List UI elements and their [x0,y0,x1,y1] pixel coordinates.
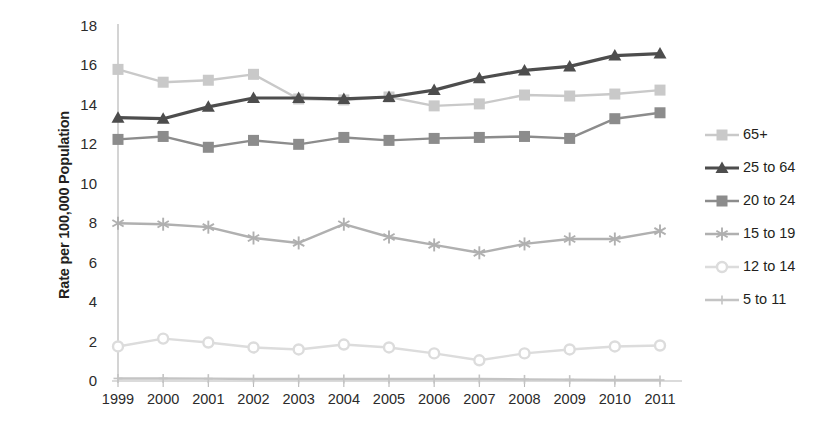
data-point-circle [158,334,168,344]
data-point-square [474,132,485,143]
chart-legend: 65+25 to 6420 to 2415 to 1912 to 145 to … [703,118,829,316]
data-point-circle [610,341,620,351]
data-point-circle [294,344,304,354]
data-point-square [248,69,259,80]
data-point-circle [474,355,484,365]
data-point-circle [717,262,727,272]
legend-label: 65+ [741,127,768,142]
legend-swatch-asterisk-icon [703,225,741,243]
data-point-circle [429,348,439,358]
data-point-square [609,89,620,100]
legend-swatch-triangle-icon [703,159,741,177]
data-point-square [429,133,440,144]
series-15-to-19 [112,217,665,260]
legend-label: 5 to 11 [741,292,786,307]
data-point-square [113,134,124,145]
data-point-square [474,98,485,109]
data-point-plus [475,375,484,384]
data-point-plus [204,374,213,383]
data-point-plus [385,375,394,384]
legend-item-20-to-24[interactable]: 20 to 24 [703,184,829,217]
data-point-plus [656,376,665,385]
data-point-square [203,142,214,153]
legend-item-12-to-14[interactable]: 12 to 14 [703,250,829,283]
series-5-to-11 [114,374,665,385]
legend-label: 20 to 24 [741,193,795,208]
data-point-square [564,91,575,102]
data-point-square [338,132,349,143]
data-point-square [519,90,530,101]
series-12-to-14 [113,334,665,366]
series-20-to-24 [113,107,666,153]
data-point-circle [339,340,349,350]
data-point-square [248,135,259,146]
data-point-plus [339,375,348,384]
data-point-circle [520,348,530,358]
series-layer [112,47,667,384]
legend-swatch-square-icon [703,192,741,210]
data-point-plus [718,295,727,304]
data-point-square [717,195,728,206]
data-point-square [113,64,124,75]
legend-label: 12 to 14 [741,259,795,274]
data-point-square [655,85,666,96]
series-line [118,54,660,119]
series-25-to-64 [112,47,667,124]
data-point-square [564,133,575,144]
data-point-circle [565,344,575,354]
data-point-square [203,75,214,86]
data-point-square [655,107,666,118]
legend-swatch-square-icon [703,126,741,144]
data-point-plus [610,376,619,385]
data-point-square [158,77,169,88]
legend-label: 15 to 19 [741,226,795,241]
data-point-circle [249,342,259,352]
legend-item-5-to-11[interactable]: 5 to 11 [703,283,829,316]
data-point-square [293,139,304,150]
data-point-square [519,131,530,142]
legend-swatch-plus-icon [703,291,741,309]
data-point-plus [430,375,439,384]
legend-item-15-to-19[interactable]: 15 to 19 [703,217,829,250]
data-point-circle [384,342,394,352]
data-point-plus [249,375,258,384]
data-point-plus [565,375,574,384]
data-point-square [158,131,169,142]
legend-swatch-circle-icon [703,258,741,276]
data-point-plus [294,375,303,384]
line-chart: Rate per 100,000 Population 181614121086… [0,0,829,446]
legend-item-25-to-64[interactable]: 25 to 64 [703,151,829,184]
legend-item-65-[interactable]: 65+ [703,118,829,151]
data-point-square [429,100,440,111]
data-point-circle [655,341,665,351]
data-point-circle [113,341,123,351]
series-65- [113,64,666,111]
axis-lines [112,24,682,387]
data-point-square [609,113,620,124]
data-point-circle [203,338,213,348]
data-point-plus [520,375,529,384]
data-point-square [717,129,728,140]
data-point-square [384,135,395,146]
legend-label: 25 to 64 [741,160,795,175]
